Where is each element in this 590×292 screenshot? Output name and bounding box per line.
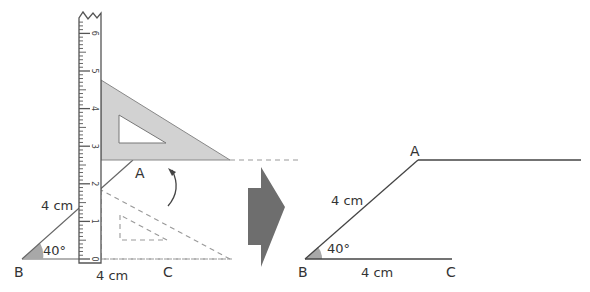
ruler-number: 2 (90, 181, 99, 186)
label-B-right: B (298, 264, 308, 280)
line-BA-right (305, 160, 418, 259)
transition-arrow-icon (248, 167, 285, 267)
label-side-BA-left: 4 cm (41, 198, 73, 213)
ruler-number: 3 (90, 144, 99, 149)
ruler-number: 4 (90, 106, 99, 111)
rotation-arrowhead (168, 168, 176, 176)
label-side-BC-right: 4 cm (361, 265, 393, 280)
ruler-number: 6 (90, 31, 99, 36)
line-BA-left (22, 160, 133, 259)
label-C-left: C (163, 264, 173, 280)
label-side-BC-left: 4 cm (96, 268, 128, 283)
ruler: 0123456 (79, 12, 101, 263)
construction-diagram: 0123456 A B C 4 cm 4 cm 40° A B C 4 cm 4… (0, 0, 590, 292)
label-side-BA-right: 4 cm (331, 193, 363, 208)
label-angle-left: 40° (43, 243, 66, 258)
label-A-left: A (135, 165, 145, 181)
label-C-right: C (446, 264, 456, 280)
ruler-number: 0 (90, 256, 99, 261)
label-B-left: B (14, 264, 24, 280)
ruler-number: 5 (90, 68, 99, 73)
label-angle-right: 40° (327, 241, 350, 256)
set-square-ghost-hole (120, 215, 167, 240)
label-A-right: A (410, 143, 420, 159)
ruler-number: 1 (90, 219, 99, 224)
